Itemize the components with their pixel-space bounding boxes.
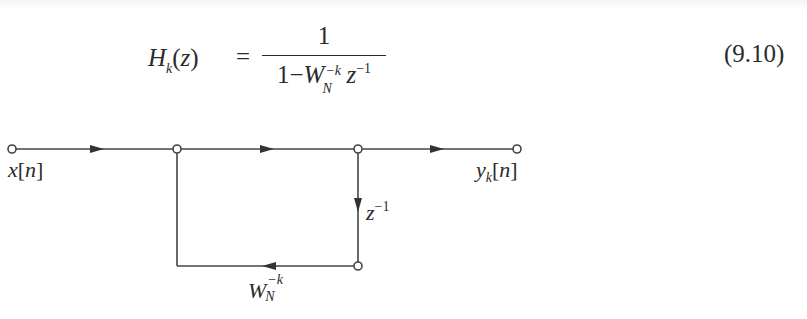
- node-delay-bottom: [354, 262, 362, 270]
- node-output: [513, 145, 521, 153]
- arrow-right-icon: [430, 145, 444, 153]
- output-subscript: k: [486, 170, 492, 185]
- bracket-close: ]: [36, 157, 43, 182]
- input-index: n: [25, 157, 36, 182]
- bracket-close: ]: [510, 157, 517, 182]
- arrow-right-icon: [260, 145, 274, 153]
- gain-var: W: [248, 278, 266, 303]
- gain-superscript: −k: [267, 272, 283, 288]
- delay-exponent: −1: [375, 199, 390, 214]
- gain-label: W−kN: [248, 278, 290, 304]
- input-label: x[n]: [8, 157, 43, 183]
- arrow-left-icon: [262, 262, 276, 270]
- gain-subscript: N: [265, 289, 274, 305]
- arrow-right-icon: [90, 145, 104, 153]
- input-var: x: [8, 157, 18, 182]
- signal-flow-graph: [0, 0, 807, 319]
- arrow-down-icon: [354, 198, 362, 212]
- output-index: n: [499, 157, 510, 182]
- node-branch: [173, 145, 181, 153]
- output-var: y: [476, 157, 486, 182]
- bracket-open: [: [18, 157, 25, 182]
- node-delay-top: [354, 145, 362, 153]
- node-input: [8, 145, 16, 153]
- delay-var: z: [366, 200, 375, 225]
- delay-label: z−1: [366, 200, 389, 226]
- gain-scripts: −kN: [266, 278, 290, 300]
- output-label: yk[n]: [476, 157, 518, 183]
